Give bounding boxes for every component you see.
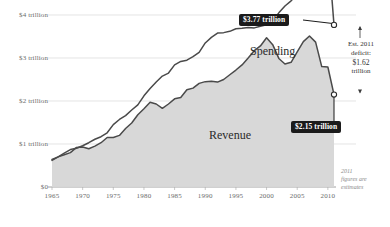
x-axis-label-1970: 1970	[68, 192, 98, 200]
x-axis-label-1985: 1985	[160, 192, 190, 200]
y-axis-label-3t: $3 trillion	[6, 54, 48, 62]
spending-endpoint-callout: $3.77 trillion	[239, 14, 289, 26]
deficit-line-2: deficit:	[339, 49, 383, 58]
revenue-series-label: Revenue	[209, 128, 251, 143]
x-tick-marks	[52, 187, 328, 190]
y-axis-label-4t: $4 trillion	[6, 11, 48, 19]
footnote-line-2: figures are	[341, 175, 367, 183]
x-axis-label-1965: 1965	[37, 192, 67, 200]
deficit-line-3: $1.62	[339, 58, 383, 67]
x-axis-label-1990: 1990	[190, 192, 220, 200]
x-axis-label-1975: 1975	[98, 192, 128, 200]
x-axis-label-1995: 1995	[221, 192, 251, 200]
y-axis-label-0: $0	[6, 183, 48, 191]
y-axis-label-2t: $2 trillion	[6, 97, 48, 105]
footnote-line-1: 2011	[341, 167, 367, 175]
footnote-line-3: estimates	[341, 183, 367, 191]
revenue-endpoint-callout: $2.15 trillion	[291, 121, 341, 133]
x-axis-label-2010: 2010	[313, 192, 343, 200]
deficit-line-4: trillion	[339, 67, 383, 76]
estimate-footnote: 2011 figures are estimates	[341, 167, 367, 191]
y-axis-label-1t: $1 trillion	[6, 140, 48, 148]
budget-chart: $4 trillion $3 trillion $2 trillion $1 t…	[0, 0, 390, 227]
spending-series-label: Spending	[250, 44, 295, 59]
x-axis-label-2005: 2005	[282, 192, 312, 200]
deficit-annotation: Est. 2011 deficit: $1.62 trillion	[339, 40, 383, 76]
x-axis-label-2000: 2000	[252, 192, 282, 200]
x-axis-label-1980: 1980	[129, 192, 159, 200]
deficit-line-1: Est. 2011	[339, 40, 383, 49]
